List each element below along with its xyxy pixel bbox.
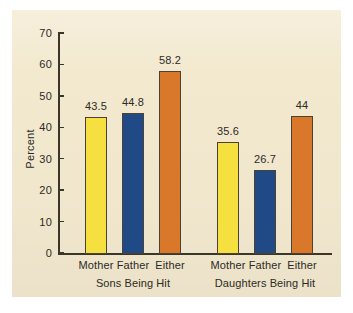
group-label: Daughters Being Hit [187,278,343,289]
bars-layer [12,10,341,254]
plot-area: 706050403020100 Percent 43.544.858.235.6… [12,10,341,297]
bar-value-label: 26.7 [245,154,285,165]
chart-figure: 706050403020100 Percent 43.544.858.235.6… [0,0,353,313]
bar-value-label: 35.6 [208,126,248,137]
bar [291,116,313,254]
bar [254,170,276,254]
bar [217,142,239,254]
bar-value-label: 44.8 [113,97,153,108]
bar [85,117,107,254]
category-label: Either [279,260,325,271]
chart-panel: 706050403020100 Percent 43.544.858.235.6… [12,10,341,297]
bar-value-label: 43.5 [76,101,116,112]
bar [159,71,181,254]
bar-value-label: 44 [282,100,322,111]
bar [122,113,144,254]
bar-value-label: 58.2 [150,55,190,66]
category-label: Either [147,260,193,271]
